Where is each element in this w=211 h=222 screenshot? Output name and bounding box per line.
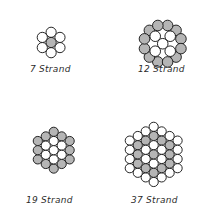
- strand-wire-circle: [176, 43, 187, 54]
- strand-diagram-page: 7Strand 12Strand 19Strand 37Strand: [0, 0, 211, 222]
- strand-wire-circle: [49, 146, 58, 155]
- strand-label-37-number: 37: [131, 195, 143, 205]
- strand-wire-circle: [139, 43, 150, 54]
- strand-label-37: 37Strand: [131, 195, 178, 205]
- strand-cluster-19: [32, 126, 75, 174]
- strand-label-7-number: 7: [30, 64, 36, 74]
- strand-label-12-word: Strand: [153, 64, 185, 74]
- strand-wire-circle: [149, 150, 158, 159]
- strand-label-12: 12Strand: [138, 64, 185, 74]
- strand-cluster-7: [36, 26, 66, 59]
- strand-wire-circle: [162, 20, 173, 31]
- strand-wire-circle: [157, 38, 168, 49]
- strand-label-19: 19Strand: [26, 195, 73, 205]
- strand-label-19-word: Strand: [41, 195, 73, 205]
- strand-cluster-12: [138, 19, 187, 68]
- strand-label-7-word: Strand: [39, 64, 71, 74]
- strand-label-37-word: Strand: [146, 195, 178, 205]
- strand-wire-circle: [176, 34, 187, 45]
- strand-wire-circle: [153, 20, 164, 31]
- strand-wire-circle: [46, 37, 56, 47]
- strand-label-12-number: 12: [138, 64, 150, 74]
- strand-cluster-37: [124, 121, 183, 188]
- strand-wire-circle: [139, 34, 150, 45]
- strand-label-7: 7Strand: [30, 64, 71, 74]
- strand-label-19-number: 19: [26, 195, 38, 205]
